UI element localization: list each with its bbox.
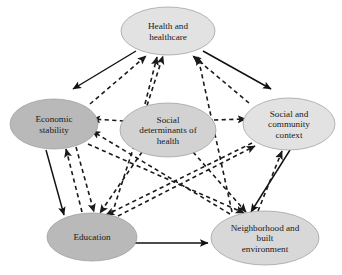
node-label-neighborhood-and-built-environment: built: [257, 233, 274, 243]
edge-economic-to-health: [90, 56, 146, 104]
edge-neighborhood-to-social-dashed: [258, 151, 282, 211]
node-health-and-healthcare[interactable]: Health andhealthcare: [121, 7, 215, 55]
edge-sdoh-to-social: [214, 119, 246, 120]
node-label-neighborhood-and-built-environment: Neighborhood and: [231, 223, 300, 233]
node-label-health-and-healthcare: healthcare: [149, 32, 187, 42]
node-label-social-and-community-context: context: [275, 130, 302, 140]
node-label-social-determinants-of-health: Social: [157, 115, 180, 125]
edge-sdoh-to-neighborhood: [193, 152, 246, 212]
edge-health-to-social: [203, 51, 271, 89]
node-education[interactable]: Education: [47, 213, 137, 261]
node-social-and-community-context[interactable]: Social andcommunitycontext: [243, 98, 335, 150]
node-label-social-determinants-of-health: health: [157, 136, 180, 146]
node-label-social-determinants-of-health: determinants of: [139, 125, 197, 135]
node-label-education: Education: [73, 232, 111, 242]
edge-social-to-health: [193, 56, 249, 103]
diagram-svg: Health andhealthcareEconomicstabilitySoc…: [0, 0, 342, 275]
node-label-social-and-community-context: community: [268, 119, 310, 129]
node-label-social-and-community-context: Social and: [270, 109, 309, 119]
edge-sdoh-to-education: [100, 152, 142, 213]
node-neighborhood-and-built-environment[interactable]: Neighborhood andbuiltenvironment: [211, 211, 319, 265]
edge-health-to-economic: [73, 51, 136, 89]
node-label-health-and-healthcare: Health and: [148, 21, 188, 31]
edge-education-to-economic-dashed: [66, 149, 82, 212]
edge-education-to-social: [118, 146, 255, 216]
node-economic-stability[interactable]: Economicstability: [10, 99, 98, 149]
node-label-economic-stability: stability: [39, 125, 69, 135]
node-social-determinants-of-health[interactable]: Socialdeterminants ofhealth: [120, 103, 216, 157]
diagram-canvas: Health andhealthcareEconomicstabilitySoc…: [0, 0, 342, 275]
node-label-neighborhood-and-built-environment: environment: [242, 244, 289, 254]
edge-economic-to-education: [46, 150, 64, 215]
node-label-economic-stability: Economic: [35, 114, 72, 124]
node-layer: Health andhealthcareEconomicstabilitySoc…: [10, 7, 335, 265]
